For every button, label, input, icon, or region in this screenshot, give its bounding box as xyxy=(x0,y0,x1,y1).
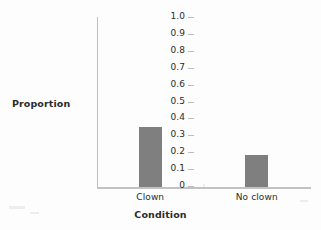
y-axis-tick-mark xyxy=(188,152,194,153)
y-axis-tick-mark xyxy=(188,85,194,86)
y-axis-tick-mark xyxy=(188,51,194,52)
y-axis-tick-label: 0.4 xyxy=(152,112,185,122)
y-axis-tick-mark xyxy=(188,135,194,136)
y-axis-tick-label: 0.8 xyxy=(152,45,185,55)
bar xyxy=(139,127,162,187)
y-axis-tick-label: 0.7 xyxy=(152,62,185,72)
y-axis-tick-mark xyxy=(188,34,194,35)
bar-chart: Proportion 1.00.90.80.70.60.50.40.30.20.… xyxy=(0,0,321,230)
x-axis-title: Condition xyxy=(0,209,321,220)
y-axis-tick-label: 0.9 xyxy=(152,28,185,38)
plot-area: 1.00.90.80.70.60.50.40.30.20.10 xyxy=(97,18,310,187)
y-axis-tick-mark xyxy=(188,17,194,18)
y-axis-tick-mark xyxy=(188,186,194,187)
y-axis-tick-mark xyxy=(188,68,194,69)
y-axis-title: Proportion xyxy=(12,98,70,109)
bar xyxy=(245,155,268,187)
x-axis-line xyxy=(97,187,311,189)
y-axis-tick-mark xyxy=(188,102,194,103)
x-axis-category-label: No clown xyxy=(212,192,302,202)
y-axis-tick-mark xyxy=(188,118,194,119)
y-axis-tick-label: 0.6 xyxy=(152,79,185,89)
y-axis-tick-mark xyxy=(188,169,194,170)
y-axis-tick-label: 0.5 xyxy=(152,96,185,106)
x-axis-category-label: Clown xyxy=(105,192,195,202)
y-axis-tick-label: 1.0 xyxy=(152,11,185,21)
